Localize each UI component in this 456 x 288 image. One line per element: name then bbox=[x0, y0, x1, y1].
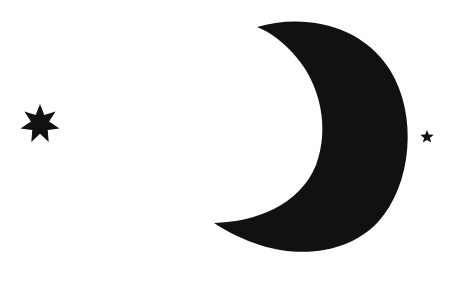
illustration-canvas: Black crescent moon with two stars on wh… bbox=[0, 0, 456, 288]
seven-point-star-icon bbox=[21, 104, 60, 142]
five-point-star-icon bbox=[420, 130, 433, 143]
crescent-moon-icon bbox=[214, 21, 408, 251]
